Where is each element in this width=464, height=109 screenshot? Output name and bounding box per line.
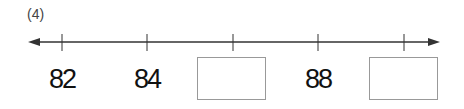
answer-box-1[interactable] xyxy=(197,57,266,100)
right-arrow-icon xyxy=(428,38,440,46)
left-arrow-icon xyxy=(28,38,40,46)
tick-value-82: 82 xyxy=(49,64,75,95)
answer-box-2[interactable] xyxy=(369,57,438,100)
tick-value-84: 84 xyxy=(134,64,160,95)
tick-value-88: 88 xyxy=(305,64,331,95)
